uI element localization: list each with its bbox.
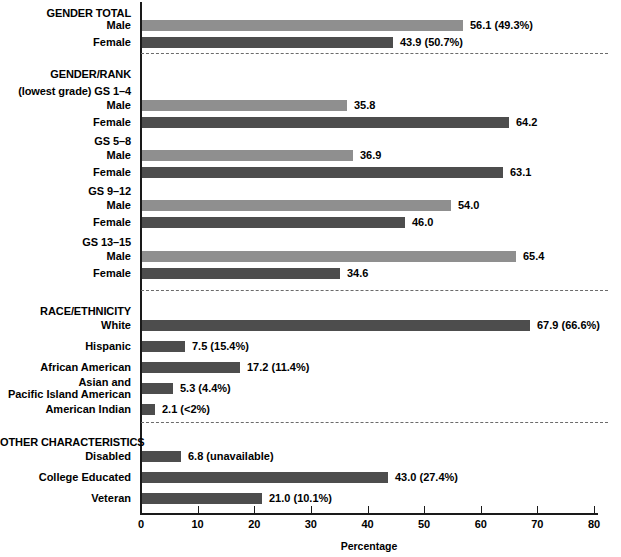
bar-value-male-gs14: 35.8: [354, 99, 375, 112]
row-label: Female: [0, 216, 131, 228]
bar-row-male-gs912: Male 54.0: [0, 199, 621, 215]
row-label: Female: [0, 116, 131, 128]
bar-row-white: White 67.9 (66.6%): [0, 319, 621, 335]
bar-male-gs912: [142, 200, 451, 211]
row-label-line-2: Pacific Island American: [8, 388, 131, 400]
bar-male-gs1315: [142, 251, 516, 262]
x-tick-label: 50: [418, 518, 430, 530]
bar-row-male-total: Male 56.1 (49.3%): [0, 19, 621, 35]
row-label: African American: [0, 361, 131, 373]
bar-row-male-gs58: Male 36.9: [0, 149, 621, 165]
bar-white: [142, 320, 530, 331]
bar-row-female-gs14: Female 64.2: [0, 116, 621, 132]
bar-female-gs912: [142, 217, 405, 228]
row-label: Disabled: [0, 450, 131, 462]
bar-row-male-gs14: Male 35.8: [0, 99, 621, 115]
x-tick-label: 30: [305, 518, 317, 530]
x-tick-label: 10: [192, 518, 204, 530]
section-divider-3: [141, 422, 608, 423]
bar-disabled: [142, 451, 181, 462]
bar-college-educated: [142, 472, 388, 483]
bar-row-female-gs912: Female 46.0: [0, 216, 621, 232]
row-label: Male: [0, 19, 131, 31]
bar-row-disabled: Disabled 6.8 (unavailable): [0, 450, 621, 466]
bar-asian-pacific: [142, 383, 173, 394]
bar-value-veteran: 21.0 (10.1%): [269, 492, 332, 505]
bar-value-disabled: 6.8 (unavailable): [188, 450, 274, 463]
row-label: Hispanic: [0, 340, 131, 352]
bar-value-female-gs14: 64.2: [516, 116, 537, 129]
bar-female-gs1315: [142, 268, 340, 279]
x-tick-label: 80: [588, 518, 600, 530]
row-label: Male: [0, 199, 131, 211]
bar-value-asian-pacific: 5.3 (4.4%): [180, 382, 231, 395]
row-label: College Educated: [0, 471, 131, 483]
bar-value-american-indian: 2.1 (<2%): [162, 403, 210, 416]
row-label: Female: [0, 267, 131, 279]
bar-male-gs58: [142, 150, 353, 161]
bar-row-american-indian: American Indian 2.1 (<2%): [0, 403, 621, 419]
bar-value-female-gs1315: 34.6: [347, 267, 368, 280]
bar-value-male-gs58: 36.9: [360, 149, 381, 162]
x-tick-label: 70: [531, 518, 543, 530]
bar-row-african-american: African American 17.2 (11.4%): [0, 361, 621, 377]
bar-value-white: 67.9 (66.6%): [537, 319, 600, 332]
bar-row-hispanic: Hispanic 7.5 (15.4%): [0, 340, 621, 356]
bar-female-gs58: [142, 167, 503, 178]
x-tick-label: 20: [248, 518, 260, 530]
x-tick-label: 60: [475, 518, 487, 530]
section-heading-gender-total: GENDER TOTAL: [0, 7, 131, 19]
bar-row-veteran: Veteran 21.0 (10.1%): [0, 492, 621, 508]
bar-value-female-total: 43.9 (50.7%): [400, 36, 463, 49]
plot-area: 01020304050607080 Percentage GENDER TOTA…: [0, 0, 621, 557]
row-label-line-1: Asian and: [78, 376, 131, 388]
row-label: White: [0, 319, 131, 331]
bar-row-male-gs1315: Male 65.4: [0, 250, 621, 266]
bar-row-female-gs1315: Female 34.6: [0, 267, 621, 283]
section-heading-gender-rank: GENDER/RANK: [0, 68, 131, 80]
bar-female-total: [142, 37, 393, 48]
row-label: Female: [0, 166, 131, 178]
row-label: Female: [0, 36, 131, 48]
bar-african-american: [142, 362, 240, 373]
bar-chart-figure: 01020304050607080 Percentage GENDER TOTA…: [0, 0, 621, 557]
row-label: Male: [0, 250, 131, 262]
bar-value-male-gs1315: 65.4: [523, 250, 544, 263]
section-subheading-gs-13-15: GS 13–15: [0, 236, 131, 248]
section-subheading-gs-5-8: GS 5–8: [0, 135, 131, 147]
row-label: Veteran: [0, 492, 131, 504]
bar-value-male-gs912: 54.0: [458, 199, 479, 212]
x-axis-line: [140, 513, 598, 515]
row-label: Male: [0, 149, 131, 161]
bar-row-female-gs58: Female 63.1: [0, 166, 621, 182]
section-divider-2: [141, 290, 608, 291]
bar-value-college-educated: 43.0 (27.4%): [395, 471, 458, 484]
row-label: American Indian: [0, 403, 131, 415]
row-label: Male: [0, 99, 131, 111]
bar-value-male-total: 56.1 (49.3%): [470, 19, 533, 32]
bar-female-gs14: [142, 117, 509, 128]
bar-value-female-gs58: 63.1: [510, 166, 531, 179]
bar-hispanic: [142, 341, 185, 352]
bar-row-asian-pacific: Asian and Pacific Island American 5.3 (4…: [0, 382, 621, 398]
bar-value-female-gs912: 46.0: [412, 216, 433, 229]
section-heading-other-characteristics: OTHER CHARACTERISTICS: [0, 436, 131, 448]
bar-value-hispanic: 7.5 (15.4%): [192, 340, 249, 353]
bar-american-indian: [142, 404, 155, 415]
section-subheading-gs-1-4: (lowest grade) GS 1–4: [0, 85, 131, 97]
bar-row-college-educated: College Educated 43.0 (27.4%): [0, 471, 621, 487]
section-subheading-gs-9-12: GS 9–12: [0, 185, 131, 197]
section-heading-race-ethnicity: RACE/ETHNICITY: [0, 305, 131, 317]
bar-value-african-american: 17.2 (11.4%): [247, 361, 309, 374]
bar-male-total: [142, 20, 463, 31]
x-tick-label: 40: [361, 518, 373, 530]
row-label-asian-pacific: Asian and Pacific Island American: [0, 376, 131, 400]
bar-male-gs14: [142, 100, 347, 111]
x-tick-label: 0: [138, 518, 144, 530]
section-divider-1: [141, 53, 608, 54]
bar-veteran: [142, 493, 262, 504]
x-axis-title: Percentage: [140, 540, 598, 552]
bar-row-female-total: Female 43.9 (50.7%): [0, 36, 621, 52]
